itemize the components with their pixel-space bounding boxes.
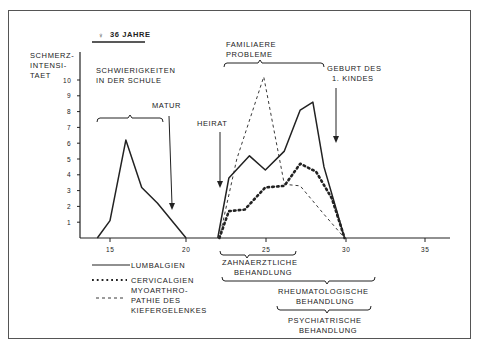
annotation-fam-1: FAMILIAERE <box>226 40 276 49</box>
y-tick-10: 10 <box>63 77 71 84</box>
annotation-geburt-2: 1. KINDES <box>332 74 374 83</box>
annotation-fam-2: PROBLEME <box>226 50 272 59</box>
legend-cervicalgien: CERVICALGIEN <box>131 276 194 285</box>
series-myoarthropathie <box>219 77 344 238</box>
y-tick-4: 4 <box>67 171 71 178</box>
patient-header: ♀ 36 JAHRE <box>92 30 151 42</box>
y-tick-5: 5 <box>67 156 71 163</box>
brace-zahn <box>220 251 296 258</box>
series-lines <box>97 77 344 238</box>
y-label-3: TAET <box>30 71 51 80</box>
y-tick-6: 6 <box>67 140 71 147</box>
brace-psy <box>277 306 371 313</box>
legend-myo-3: KIEFERGELENKES <box>131 306 207 315</box>
y-tick-9: 9 <box>67 92 71 99</box>
y-tick-1: 1 <box>67 219 71 226</box>
pain-chart: ♀ 36 JAHRE SCHMERZ- INTENSI- TAET 123456… <box>0 0 479 349</box>
brace-rheu <box>222 277 375 284</box>
annotation-rheu-1: RHEUMATOLOGISCHE <box>278 287 369 296</box>
patient-age: 36 JAHRE <box>110 30 151 39</box>
annotation-psy-1: PSYCHIATRISCHE <box>288 316 362 325</box>
brace-family <box>224 60 324 67</box>
legend: LUMBALGIEN CERVICALGIEN MYOARTHRO- PATHI… <box>92 261 207 315</box>
y-label-2: INTENSI- <box>30 61 67 70</box>
annotation-psy-2: BEHANDLUNG <box>299 326 357 335</box>
x-tick-30: 30 <box>342 246 350 253</box>
y-tick-2: 2 <box>67 203 71 210</box>
y-label-1: SCHMERZ- <box>30 51 74 60</box>
annotation-zahn-1: ZAHNAERZTLICHE <box>222 258 298 267</box>
y-tick-3: 3 <box>67 187 71 194</box>
legend-myo-2: PATHIE DES <box>131 296 180 305</box>
x-tick-20: 20 <box>182 246 190 253</box>
series-lumbalgien <box>218 102 345 238</box>
annotation-geburt-1: GEBURT DES <box>327 64 382 73</box>
annotation-school-2: IN DER SCHULE <box>96 76 162 85</box>
x-tick-35: 35 <box>421 246 429 253</box>
annotation-school-1: SCHWIERIGKEITEN <box>96 66 175 75</box>
legend-lumbalgien: LUMBALGIEN <box>131 261 185 270</box>
y-tick-7: 7 <box>67 124 71 131</box>
annotation-rheu-2: BEHANDLUNG <box>296 297 354 306</box>
annotation-zahn-2: BEHANDLUNG <box>234 268 292 277</box>
y-ticks: 12345678910 <box>63 77 80 226</box>
annotation-matur: MATUR <box>152 101 181 110</box>
x-tick-25: 25 <box>262 246 270 253</box>
x-tick-15: 15 <box>106 246 114 253</box>
brace-school <box>97 115 163 122</box>
annotation-heirat: HEIRAT <box>197 119 228 128</box>
legend-myo-1: MYOARTHRO- <box>131 286 188 295</box>
series-lumbalgien <box>97 140 186 238</box>
y-tick-8: 8 <box>67 108 71 115</box>
female-icon: ♀ <box>98 31 104 40</box>
